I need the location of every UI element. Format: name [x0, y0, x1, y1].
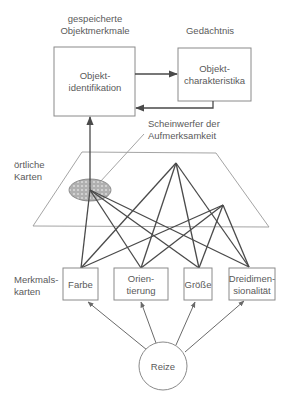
object-identification-label-1: Objekt-: [80, 70, 111, 81]
arrow-characteristics-to-identification: [136, 101, 213, 108]
object-identification-label-2: identifikation: [69, 82, 122, 93]
attention-model-diagram: gespeicherte Objektmerkmale Gedächtnis O…: [0, 0, 289, 404]
feature-map-3d-label-2: sionalität: [233, 285, 271, 296]
location-maps-label-2: Karten: [14, 171, 42, 182]
location-maps-label-1: örtliche: [14, 159, 45, 170]
feature-maps-label-2: karten: [14, 286, 40, 297]
feature-map-size-label: Größe: [185, 279, 212, 290]
stimulus-label: Reize: [151, 361, 175, 372]
feature-map-orientation-label-1: Orien-: [128, 273, 154, 284]
spotlight-pointer: [100, 134, 144, 182]
feature-map-orientation-label-2: tierung: [126, 285, 155, 296]
spotlight-label-2: Aufmerksamkeit: [148, 130, 216, 141]
feature-map-color-label: Farbe: [68, 279, 93, 290]
stored-features-label-2: Objektmerkmale: [60, 25, 129, 36]
object-characteristics-label-1: Objekt-: [199, 63, 230, 74]
object-characteristics-label-2: charakteristika: [184, 75, 246, 86]
feature-map-3d-label-1: Dreidimen-: [229, 273, 275, 284]
stored-features-label-1: gespeicherte: [68, 13, 122, 24]
feature-maps-label-1: Merkmals-: [14, 274, 58, 285]
memory-label: Gedächtnis: [186, 25, 234, 36]
spotlight-label-1: Scheinwerfer der: [148, 118, 220, 129]
location-map-plane: [33, 152, 269, 227]
